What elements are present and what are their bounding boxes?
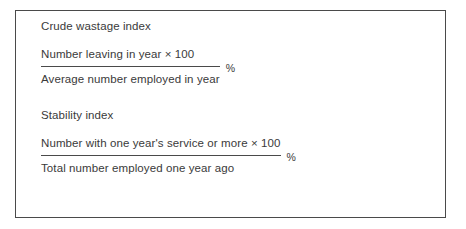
figure-border-box: Crude wastage index Number leaving in ye… [15,10,446,218]
fraction-numerator: Number leaving in year × 100 [41,47,220,66]
formula-heading: Stability index [41,108,439,122]
fraction-denominator: Average number employed in year [41,67,220,86]
percent-unit-label: % [281,151,296,163]
formula-block-stability-index: Stability index Number with one year's s… [41,108,439,175]
fraction-stack: Number with one year's service or more ×… [41,136,281,175]
figure-root: Crude wastage index Number leaving in ye… [0,0,466,229]
formula-block-crude-wastage-index: Crude wastage index Number leaving in ye… [41,19,439,86]
fraction-stack: Number leaving in year × 100 Average num… [41,47,220,86]
percent-unit-label: % [220,62,235,74]
block-spacer [41,86,439,108]
fraction-denominator: Total number employed one year ago [41,156,281,175]
formula-fraction: Number with one year's service or more ×… [41,136,296,175]
formula-fraction: Number leaving in year × 100 Average num… [41,47,235,86]
formula-list: Crude wastage index Number leaving in ye… [41,19,439,213]
fraction-numerator: Number with one year's service or more ×… [41,136,281,155]
formula-heading: Crude wastage index [41,19,439,33]
